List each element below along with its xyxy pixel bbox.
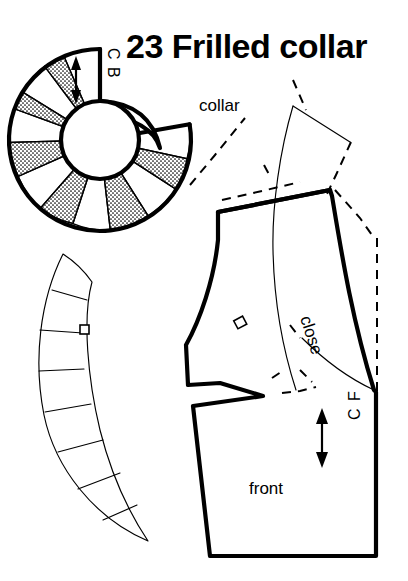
block-dashed-closure-guide xyxy=(290,325,300,338)
piece-bodice-front: collar front C F close xyxy=(186,80,377,556)
collar-overlay-top-edge xyxy=(293,106,350,142)
block-dashed-collar-stand xyxy=(264,165,271,178)
block-dashed-armhole xyxy=(335,190,374,238)
grainline-arrow-front xyxy=(316,408,328,468)
page-title: 23 Frilled collar xyxy=(126,27,367,65)
piece-collar-strip xyxy=(39,254,148,541)
collar-label: collar xyxy=(199,96,240,115)
block-dashed-neckline xyxy=(190,118,245,185)
block-dashed-collar-side xyxy=(326,142,351,196)
pattern-sheet: 23 Frilled collar xyxy=(0,0,408,581)
block-dashed-closure-guide xyxy=(300,370,312,382)
armhole-notch xyxy=(234,316,247,329)
close-label: close xyxy=(296,313,326,357)
front-label: front xyxy=(249,479,283,498)
collar-overlay-outer-curve xyxy=(273,106,296,390)
block-dashed-dart-guide xyxy=(282,387,316,393)
collar-strip-notch xyxy=(80,325,89,334)
bodice-outline xyxy=(186,190,376,556)
center-back-label: C B xyxy=(105,48,122,79)
center-front-label: C F xyxy=(346,390,363,420)
sewing-pattern-figure: 23 Frilled collar xyxy=(0,0,408,581)
collar-strip-outline xyxy=(39,254,148,541)
piece-circular-collar: C B xyxy=(9,48,191,231)
block-dashed-waist-tick xyxy=(272,372,281,378)
collar-neck-circle xyxy=(61,101,139,179)
block-dashed-collar-rise xyxy=(293,80,306,110)
